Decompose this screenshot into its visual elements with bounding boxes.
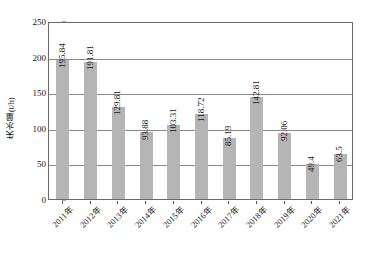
bar [112, 107, 125, 199]
x-tick-mark [117, 201, 118, 204]
bar-chart: 失水量(t/h) 050100150200250 195.84191.81129… [0, 0, 373, 255]
y-axis-title: 失水量(t/h) [4, 78, 18, 158]
x-tick-mark [228, 201, 229, 204]
x-tick-mark [90, 201, 91, 204]
bar [140, 132, 153, 199]
x-tick-label: 2012年 [78, 205, 102, 229]
x-tick-mark [201, 201, 202, 204]
bar [223, 138, 236, 199]
x-tick-label: 2015年 [161, 205, 185, 229]
y-tick-label: 0 [18, 196, 46, 205]
x-tick-mark [339, 201, 340, 204]
x-tick-label: 2021年 [328, 205, 352, 229]
bar [278, 133, 291, 199]
bars-layer: 195.84191.81129.8193.88103.31118.7285.19… [49, 23, 352, 199]
bar-value-label: 92.06 [280, 121, 289, 141]
plot-area: 195.84191.81129.8193.88103.31118.7285.19… [48, 22, 353, 200]
y-tick-label: 150 [18, 89, 46, 98]
x-tick-label: 2014年 [134, 205, 158, 229]
x-tick-mark [62, 201, 63, 204]
x-tick-label: 2013年 [106, 205, 130, 229]
x-tick-mark [284, 201, 285, 204]
bar-value-label: 93.88 [141, 120, 150, 140]
y-tick-label: 250 [18, 18, 46, 27]
x-tick-label: 2019年 [272, 205, 296, 229]
y-tick-label: 50 [18, 160, 46, 169]
bar [56, 60, 69, 199]
y-axis-ticks: 050100150200250 [18, 0, 46, 255]
x-tick-label: 2018年 [245, 205, 269, 229]
x-tick-label: 2016年 [189, 205, 213, 229]
bar-value-label: 118.72 [197, 98, 206, 122]
x-tick-label: 2011年 [51, 205, 75, 229]
bar-value-label: 129.81 [113, 90, 122, 115]
x-tick-label: 2017年 [217, 205, 241, 229]
bar-value-label: 85.19 [224, 126, 233, 146]
bar [250, 97, 263, 199]
x-tick-mark [173, 201, 174, 204]
x-tick-label: 2020年 [300, 205, 324, 229]
x-axis-ticks: 2011年2012年2013年2014年2015年2016年2017年2018年… [48, 201, 353, 255]
y-tick-label: 200 [18, 53, 46, 62]
bar [84, 62, 97, 199]
bar-value-label: 63.5 [335, 146, 344, 162]
x-tick-mark [256, 201, 257, 204]
x-tick-mark [311, 201, 312, 204]
bar-value-label: 103.31 [169, 109, 178, 134]
bar-value-label: 191.81 [86, 46, 95, 71]
bar-value-label: 195.84 [58, 43, 67, 68]
x-tick-mark [145, 201, 146, 204]
bar-value-label: 49.4 [307, 156, 316, 172]
bar [167, 125, 180, 199]
bar [195, 114, 208, 199]
bar-value-label: 142.81 [252, 81, 261, 106]
y-tick-label: 100 [18, 124, 46, 133]
